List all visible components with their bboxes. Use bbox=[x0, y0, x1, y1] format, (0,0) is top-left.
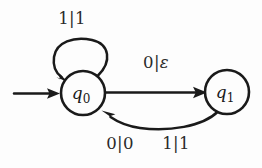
state-q0[interactable]: q0 bbox=[61, 71, 105, 115]
label-q1-to-q0-alt: 1|1 bbox=[162, 134, 189, 153]
label-self-loop-q0: 1|1 bbox=[58, 9, 85, 28]
label-q1-to-q0: 0|0 bbox=[106, 134, 133, 153]
q1-q0-curve bbox=[111, 112, 219, 130]
state-q1[interactable]: q1 bbox=[205, 70, 249, 114]
transition-q1-to-q0 bbox=[102, 111, 219, 130]
transition-q0-to-q1 bbox=[106, 87, 208, 98]
fst-canvas: q0 q1 1|1 0|ε 0|0 1|1 bbox=[0, 0, 262, 168]
start-arrow bbox=[14, 88, 60, 99]
fst-diagram: q0 q1 1|1 0|ε 0|0 1|1 bbox=[0, 0, 262, 168]
label-q0-to-q1: 0|ε bbox=[143, 53, 169, 72]
